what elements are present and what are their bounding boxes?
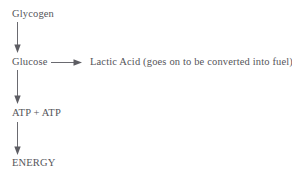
arrow-atp-to-energy	[14, 122, 20, 155]
node-label-atp: ATP + ATP	[12, 107, 61, 118]
arrow-glycogen-to-glucose	[14, 22, 20, 53]
node-label-lactic-acid: Lactic Acid (goes on to be converted int…	[90, 56, 292, 67]
arrow-glucose-to-atp	[14, 70, 20, 104]
node-label-glycogen: Glycogen	[12, 8, 54, 19]
node-label-energy: ENERGY	[12, 157, 55, 168]
node-label-glucose: Glucose	[12, 56, 47, 67]
arrow-layer	[0, 0, 292, 177]
arrow-glucose-to-lactic-acid	[51, 59, 82, 65]
pathway-diagram: Glycogen Glucose Lactic Acid (goes on to…	[0, 0, 292, 177]
